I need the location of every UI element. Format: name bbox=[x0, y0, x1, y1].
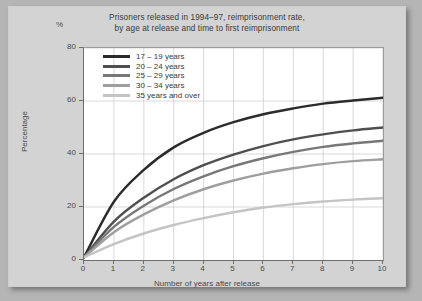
legend-item-label: 25 – 29 years bbox=[136, 71, 184, 80]
legend-item[interactable]: 30 – 34 years bbox=[103, 81, 200, 91]
x-tick-label: 10 bbox=[372, 264, 392, 273]
chart-legend: 17 – 19 years20 – 24 years25 – 29 years3… bbox=[103, 52, 200, 100]
legend-item[interactable]: 17 – 19 years bbox=[103, 52, 200, 62]
chart-title-line-2: by age at release and time to first reim… bbox=[9, 23, 405, 34]
y-tick-label: 0 bbox=[54, 254, 76, 263]
y-axis-unit-label: % bbox=[56, 20, 63, 29]
chart-title: Prisoners released in 1994–97, reimpriso… bbox=[9, 12, 405, 34]
x-tick-label: 7 bbox=[282, 264, 302, 273]
legend-swatch-icon bbox=[103, 55, 130, 58]
x-tick-label: 9 bbox=[342, 264, 362, 273]
x-tick-label: 6 bbox=[252, 264, 272, 273]
legend-item-label: 35 years and over bbox=[136, 91, 200, 100]
y-tick-label: 40 bbox=[54, 148, 76, 157]
x-tick-label: 3 bbox=[163, 264, 183, 273]
x-tick-label: 0 bbox=[73, 264, 93, 273]
legend-item[interactable]: 20 – 24 years bbox=[103, 62, 200, 72]
legend-swatch-icon bbox=[103, 94, 130, 97]
x-tick-label: 2 bbox=[133, 264, 153, 273]
x-tick-label: 8 bbox=[312, 264, 332, 273]
x-axis-title: Number of years after release bbox=[9, 279, 405, 288]
legend-swatch-icon bbox=[103, 84, 130, 87]
legend-item-label: 20 – 24 years bbox=[136, 62, 184, 71]
legend-swatch-icon bbox=[103, 74, 130, 77]
x-tick-label: 5 bbox=[223, 264, 243, 273]
legend-item[interactable]: 25 – 29 years bbox=[103, 71, 200, 81]
y-axis-title: Percentage bbox=[20, 92, 29, 172]
x-tick-label: 4 bbox=[193, 264, 213, 273]
legend-item[interactable]: 35 years and over bbox=[103, 90, 200, 100]
y-tick-label: 20 bbox=[54, 201, 76, 210]
y-tick-label: 60 bbox=[54, 95, 76, 104]
legend-item-label: 30 – 34 years bbox=[136, 81, 184, 90]
chart-figure: Prisoners released in 1994–97, reimpriso… bbox=[8, 6, 406, 287]
y-tick-label: 80 bbox=[54, 42, 76, 51]
x-tick-label: 1 bbox=[103, 264, 123, 273]
legend-swatch-icon bbox=[103, 65, 130, 68]
legend-item-label: 17 – 19 years bbox=[136, 52, 184, 61]
chart-title-line-1: Prisoners released in 1994–97, reimpriso… bbox=[9, 12, 405, 23]
